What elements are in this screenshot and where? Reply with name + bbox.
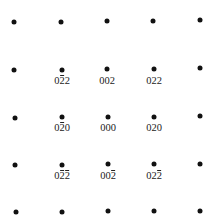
index-digit: 2 [157,76,162,87]
diffraction-spot [152,209,157,214]
miller-index-label: 020 [146,123,162,134]
diffraction-spot [152,115,157,120]
diffraction-spot [152,162,157,167]
diffraction-spot [12,68,17,73]
diffraction-spot [198,66,203,71]
diffraction-spot [106,209,111,214]
diffraction-spot [151,19,156,24]
miller-index-label: 022 [54,76,70,87]
index-digit: 0 [111,123,116,134]
diffraction-spot [60,68,65,73]
miller-index-label: 020 [54,123,70,134]
diffraction-spot [198,18,203,23]
diffraction-spot [60,210,65,215]
diffraction-spot [152,67,157,72]
diffraction-spot [106,162,111,167]
miller-index-label: 002 [100,171,116,182]
index-digit-negative: 2 [157,171,162,182]
diffraction-spot [13,163,18,168]
miller-index-label: 022 [54,171,70,182]
diffraction-spot [12,20,17,25]
diffraction-spot [198,114,203,119]
diffraction-spot [198,209,203,214]
diffraction-spot [105,67,110,72]
diffraction-spot [106,115,111,120]
index-digit-negative: 2 [65,171,70,182]
miller-index-label: 022 [146,171,162,182]
index-digit: 2 [65,76,70,87]
index-digit: 0 [157,123,162,134]
miller-index-label: 022 [146,76,162,87]
index-digit-negative: 2 [111,171,116,182]
diffraction-spot [60,115,65,120]
index-digit: 2 [110,76,115,87]
index-digit: 0 [65,123,70,134]
miller-index-label: 000 [100,123,116,134]
diffraction-spot [13,116,18,121]
diffraction-spot [60,163,65,168]
diffraction-spot [198,162,203,167]
miller-index-label: 002 [99,76,115,87]
diffraction-spot [59,20,64,25]
diffraction-spot [105,19,110,24]
diffraction-spot [14,210,19,215]
